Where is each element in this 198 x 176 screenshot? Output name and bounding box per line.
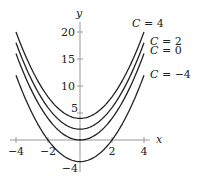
curve-label: C = 0	[150, 44, 182, 57]
curve-label: C = 4	[132, 17, 164, 30]
y-tick-label: 5	[71, 102, 78, 115]
ticks: −4−224−45101520	[8, 26, 148, 175]
y-tick-label: −4	[62, 162, 78, 175]
curve-label: C = −4	[150, 68, 191, 81]
y-tick-label: 20	[61, 26, 75, 39]
x-tick-label: 2	[109, 145, 116, 158]
chart: x y −4−224−45101520 C = 4C = 2C = 0C = −…	[0, 0, 198, 176]
y-tick-label: 15	[61, 53, 75, 66]
x-axis-label: x	[156, 133, 163, 146]
x-tick-label: −4	[8, 145, 24, 158]
y-axis-label: y	[75, 7, 83, 20]
x-tick-label: 4	[141, 145, 148, 158]
y-tick-label: 10	[61, 80, 75, 93]
curve-labels: C = 4C = 2C = 0C = −4	[132, 17, 191, 81]
